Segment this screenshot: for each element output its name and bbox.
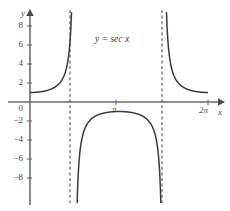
x-tick-label-2pi: 2π: [199, 106, 208, 115]
y-tick-label-6: 6: [9, 40, 23, 49]
x-tick-label-pi: π: [112, 105, 117, 114]
y-tick-label-8: 8: [9, 21, 23, 30]
secant-branch-1: [30, 12, 72, 92]
secant-branch-2: [77, 112, 161, 203]
y-tick-label-0: 0: [9, 104, 23, 113]
y-tick-label-neg6: −6: [6, 154, 23, 163]
y-tick-label-neg4: −4: [6, 135, 23, 144]
y-tick-label-4: 4: [9, 59, 23, 68]
y-axis: [26, 9, 34, 205]
curve-equation-annotation: y = sec x: [95, 35, 129, 45]
y-tick-label-2: 2: [9, 78, 23, 87]
x-axis-label: x: [218, 108, 222, 117]
sec-x-graph-figure: y x 8 6 4 2 0 −2 −4 −6 −8 π 2π y = sec x: [0, 0, 230, 211]
secant-branch-3: [167, 12, 209, 92]
y-axis-label: y: [21, 9, 25, 18]
y-tick-label-neg8: −8: [6, 173, 23, 182]
y-tick-label-neg2: −2: [6, 116, 23, 125]
